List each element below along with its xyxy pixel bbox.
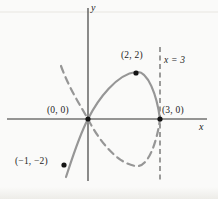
vertical-line-label: x = 3 bbox=[164, 56, 185, 66]
x-axis-label: x bbox=[199, 122, 204, 132]
point-label-3-0: (3, 0) bbox=[162, 106, 184, 116]
data-point bbox=[157, 116, 162, 121]
solid-curve bbox=[66, 72, 160, 177]
data-point bbox=[133, 70, 138, 75]
y-axis-label: y bbox=[91, 3, 96, 13]
data-point bbox=[61, 162, 66, 167]
point-label-origin: (0, 0) bbox=[47, 106, 69, 116]
graph-canvas bbox=[0, 0, 218, 199]
data-point bbox=[85, 116, 90, 121]
point-label-neg1-neg2: (−1, −2) bbox=[15, 157, 48, 167]
point-label-2-2: (2, 2) bbox=[121, 51, 143, 61]
math-graph-figure: y x (0, 0) (2, 2) (3, 0) (−1, −2) x = 3 bbox=[0, 0, 218, 199]
